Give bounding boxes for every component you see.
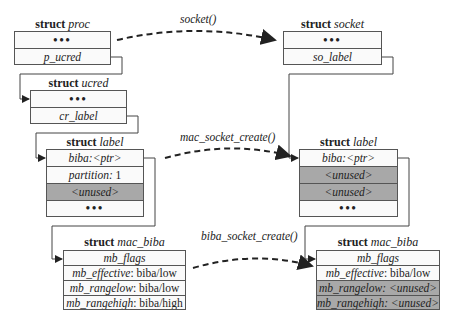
arrow-socket — [117, 31, 275, 40]
struct-mac-biba-left: mb_flags mb_effective: biba/low mb_range… — [63, 250, 186, 310]
arrow-label-socket: socket() — [180, 13, 216, 25]
arrow-label-biba-socket-create: biba_socket_create() — [201, 230, 298, 242]
struct-ucred: ••• cr_label — [30, 90, 127, 124]
field-mb-flags: mb_flags — [317, 251, 439, 266]
field-ellipsis: ••• — [300, 201, 397, 216]
field-biba-ptr: biba: <ptr> — [47, 150, 143, 167]
struct-proc-title: struct proc — [14, 17, 111, 32]
struct-mac-biba-right: mb_flags mb_effective: biba/low mb_range… — [316, 250, 440, 310]
field-unused: <unused> — [300, 167, 397, 184]
field-mb-rangelow: mb_rangelow: biba/low — [64, 281, 185, 296]
struct-ucred-title: struct ucred — [30, 76, 127, 91]
struct-label-left: biba: <ptr> partition: 1 <unused> ••• — [46, 149, 144, 217]
field-unused: <unused> — [47, 184, 143, 201]
field-mb-flags: mb_flags — [64, 251, 185, 266]
field-mb-rangehigh-unused: mb_rangehigh: <unused> — [317, 296, 439, 309]
field-ellipsis: ••• — [284, 32, 381, 49]
arrow-mac-socket-create — [165, 148, 290, 158]
struct-socket-title: struct socket — [283, 17, 382, 32]
field-mb-effective: mb_effective: biba/low — [317, 266, 439, 281]
field-mb-effective: mb_effective: biba/low — [64, 266, 185, 281]
field-mb-rangehigh: mb_rangehigh: biba/high — [64, 296, 185, 309]
struct-label-right: biba: <ptr> <unused> <unused> ••• — [299, 149, 398, 217]
field-mb-rangelow-unused: mb_rangelow: <unused> — [317, 281, 439, 296]
struct-proc: ••• p_ucred — [14, 31, 111, 65]
field-ellipsis: ••• — [15, 32, 110, 49]
field-ellipsis: ••• — [47, 201, 143, 216]
arrow-label-mac-socket-create: mac_socket_create() — [180, 131, 275, 143]
field-partition: partition: 1 — [47, 167, 143, 184]
struct-label-left-title: struct label — [46, 135, 144, 150]
field-unused: <unused> — [300, 184, 397, 201]
field-ellipsis: ••• — [31, 91, 126, 108]
struct-mac-biba-right-title: struct mac_biba — [316, 235, 440, 250]
struct-socket: ••• so_label — [283, 31, 382, 65]
field-biba-ptr: biba: <ptr> — [300, 150, 397, 167]
field-p-ucred: p_ucred — [15, 49, 110, 65]
struct-mac-biba-left-title: struct mac_biba — [63, 235, 186, 250]
field-so-label: so_label — [284, 49, 381, 65]
arrow-biba-socket-create — [193, 258, 312, 268]
struct-label-right-title: struct label — [299, 135, 398, 150]
field-cr-label: cr_label — [31, 108, 126, 124]
